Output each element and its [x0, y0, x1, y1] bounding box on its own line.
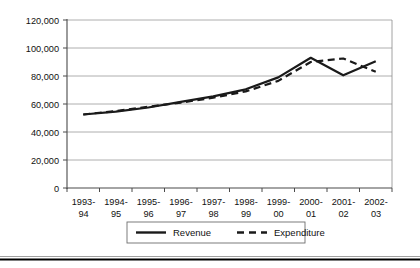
x-label-9-line2: 03	[371, 209, 381, 219]
y-label-80000: 80,000	[31, 72, 59, 82]
chart-legend: Revenue Expenditure	[127, 222, 325, 243]
y-label-120000: 120,000	[26, 16, 59, 26]
y-label-20000: 20,000	[31, 156, 59, 166]
x-label-0-line1: 1993-	[72, 197, 96, 207]
x-label-9-line1: 2002-	[364, 197, 388, 207]
y-label-100000: 100,000	[26, 44, 59, 54]
y-label-60000: 60,000	[31, 100, 59, 110]
x-label-7-line1: 2000-	[299, 197, 323, 207]
x-label-8-line1: 2001-	[332, 197, 356, 207]
x-label-1-line1: 1994-	[104, 197, 128, 207]
x-label-0-line2: 94	[78, 209, 88, 219]
x-label-1-line2: 95	[111, 209, 121, 219]
x-label-8-line2: 02	[338, 209, 348, 219]
x-label-2-line1: 1995-	[137, 197, 161, 207]
line-chart: 120,000 100,000 80,000 60,000 40,000 20,…	[0, 0, 420, 268]
legend-label-revenue: Revenue	[173, 227, 211, 238]
x-label-6-line1: 1999-	[267, 197, 291, 207]
x-label-3-line1: 1996-	[169, 197, 193, 207]
x-label-7-line2: 01	[306, 209, 316, 219]
y-label-40000: 40,000	[31, 128, 59, 138]
chart-figure: 120,000 100,000 80,000 60,000 40,000 20,…	[0, 0, 420, 268]
x-label-3-line2: 97	[176, 209, 186, 219]
x-label-2-line2: 96	[143, 209, 153, 219]
x-label-4-line1: 1997-	[202, 197, 226, 207]
x-label-5-line1: 1998-	[234, 197, 258, 207]
y-label-0: 0	[54, 184, 59, 194]
x-label-6-line2: 00	[273, 209, 283, 219]
x-label-4-line2: 98	[208, 209, 218, 219]
legend-label-expenditure: Expenditure	[274, 227, 325, 238]
x-label-5-line2: 99	[241, 209, 251, 219]
